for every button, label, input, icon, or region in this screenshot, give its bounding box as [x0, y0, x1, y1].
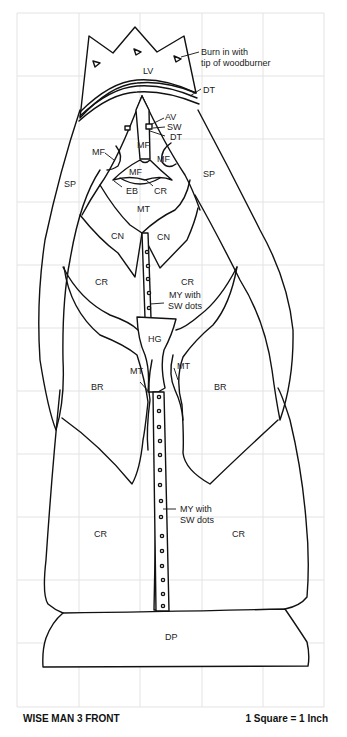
label-cuff-left: MT — [130, 366, 143, 376]
label-placket-upper-2: SW dots — [168, 301, 203, 311]
collar — [80, 208, 198, 277]
label-base: DP — [165, 632, 178, 642]
cheek-left — [107, 146, 121, 170]
label-hands: HG — [148, 334, 162, 344]
robe-outline — [44, 388, 308, 613]
label-cheek-right: MF — [157, 154, 170, 164]
label-eyebrow: EB — [126, 186, 138, 196]
label-beard: MT — [137, 204, 150, 214]
label-cheek-left: MF — [92, 147, 105, 157]
label-robe-upper-left: CR — [95, 277, 108, 287]
face-left-edge — [82, 96, 142, 215]
scale-note: 1 Square = 1 Inch — [245, 713, 328, 724]
label-eye-av: AV — [165, 112, 176, 122]
label-crown: LV — [143, 66, 153, 76]
label-collar-right: CN — [157, 232, 170, 242]
label-nose: MF — [137, 140, 150, 150]
label-burn-note-1: Burn in with — [201, 47, 248, 57]
label-shawl-right: SP — [203, 169, 215, 179]
label-robe-upper-right: CR — [181, 277, 194, 287]
pattern-drawing: LV Burn in with tip of woodburner DT AV … — [0, 0, 347, 737]
label-eye-dt: DT — [170, 132, 182, 142]
label-lip: CR — [154, 186, 167, 196]
label-mouth: MF — [129, 167, 142, 177]
label-placket-lower-1: MY with — [180, 504, 212, 514]
pattern-title: WISE MAN 3 FRONT — [23, 713, 120, 724]
label-robe-lower-right: CR — [232, 529, 245, 539]
label-cuff-right: MT — [177, 361, 190, 371]
label-sleeve-right: BR — [214, 382, 227, 392]
label-burn-note-2: tip of woodburner — [201, 58, 271, 68]
label-eye-sw: SW — [167, 122, 182, 132]
placket-upper — [142, 233, 151, 318]
eye-left — [125, 126, 130, 130]
label-robe-lower-left: CR — [94, 529, 107, 539]
label-collar-left: CN — [111, 231, 124, 241]
label-placket-upper-1: MY with — [169, 290, 201, 300]
label-sleeve-left: BR — [91, 382, 104, 392]
eye-right — [146, 124, 152, 129]
label-band: DT — [203, 85, 215, 95]
label-placket-lower-2: SW dots — [180, 515, 215, 525]
label-shawl-left: SP — [64, 179, 76, 189]
